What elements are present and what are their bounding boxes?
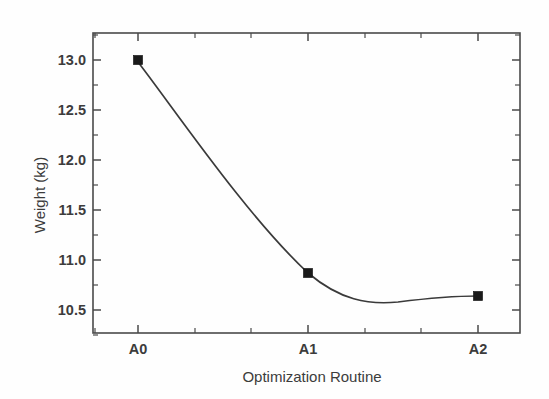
chart-figure: 10.5 11.0 11.5 12.0 12.5 13.0 A0 A1 A2 W… [0, 0, 549, 399]
y-tick-label-11-0: 11.0 [59, 252, 86, 268]
y-tick-label-12-5: 12.5 [58, 102, 86, 118]
x-axis-major-ticks [138, 325, 478, 333]
y-tick-label-13-0: 13.0 [58, 52, 86, 68]
x-axis-title: Optimization Routine [242, 368, 381, 385]
y-tick-label-12-0: 12.0 [58, 152, 86, 168]
y-axis-title: Weight (kg) [31, 157, 48, 233]
y-tick-label-10-5: 10.5 [58, 302, 86, 318]
right-axis-ticks [512, 35, 520, 310]
y-tick-labels: 10.5 11.0 11.5 12.0 12.5 13.0 [58, 52, 86, 318]
data-point-a2 [474, 292, 483, 301]
plot-frame [93, 33, 520, 333]
weight-curve [138, 62, 478, 303]
x-tick-label-a2: A2 [469, 341, 488, 357]
x-tick-label-a1: A1 [299, 341, 318, 357]
top-axis-ticks [95, 33, 478, 41]
data-point-a1 [304, 269, 313, 278]
y-tick-label-11-5: 11.5 [59, 202, 86, 218]
x-tick-labels: A0 A1 A2 [129, 341, 488, 357]
weight-vs-optimization-routine-line-chart: 10.5 11.0 11.5 12.0 12.5 13.0 A0 A1 A2 W… [0, 0, 549, 399]
data-point-a0 [134, 56, 143, 65]
x-tick-label-a0: A0 [129, 341, 148, 357]
data-series-weight [134, 56, 483, 303]
